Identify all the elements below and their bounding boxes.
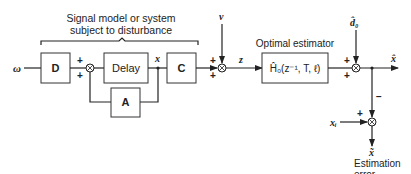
estimator-label: Optimal estimator [256,38,335,49]
sum4-sign-top: − [376,91,382,102]
signal-z: z [238,54,243,65]
signal-v: v [219,11,224,22]
summing-junction-3 [352,64,360,72]
estimator-transfer-function: Ĥ₀(z⁻¹, T, ℓ) [270,62,321,74]
group-label-line1: Signal model or system [66,12,175,24]
group-brace [41,38,198,45]
summing-junction-4 [368,118,376,126]
sum3-sign-top: + [344,55,350,66]
error-label-line2: error [354,169,376,174]
sum4-sign-left: + [357,108,363,119]
error-label-line1: Estimation [354,158,401,169]
signal-x-hat: x̂ [390,53,396,64]
block-c: C [167,53,196,83]
summing-junction-1 [86,64,94,72]
block-c-label: C [178,62,186,74]
block-d-label: D [52,62,60,74]
signal-d0-hat: d̂₀ [350,16,359,28]
block-a: A [111,88,140,117]
block-a-label: A [122,96,130,108]
signal-xi: xᵢ [329,117,337,128]
signal-x: x [154,53,160,64]
group-label-line2: subject to disturbance [70,24,172,36]
block-optimal-estimator: Ĥ₀(z⁻¹, T, ℓ) [262,53,328,83]
signal-omega: ω [13,62,21,74]
sum3-sign-bottom: + [344,70,350,81]
summing-junction-2 [218,64,226,72]
sum1-sign-bottom: + [77,70,83,81]
sum2-sign-bottom: + [210,70,216,81]
block-delay-label: Delay [112,62,141,74]
signal-x-tilde: x̃ [368,147,375,158]
block-delay: Delay [104,53,148,83]
sum1-sign-top: + [77,55,83,66]
sum2-sign-top: + [210,55,216,66]
block-d: D [41,53,70,83]
block-diagram: Signal model or system subject to distur… [0,0,411,174]
